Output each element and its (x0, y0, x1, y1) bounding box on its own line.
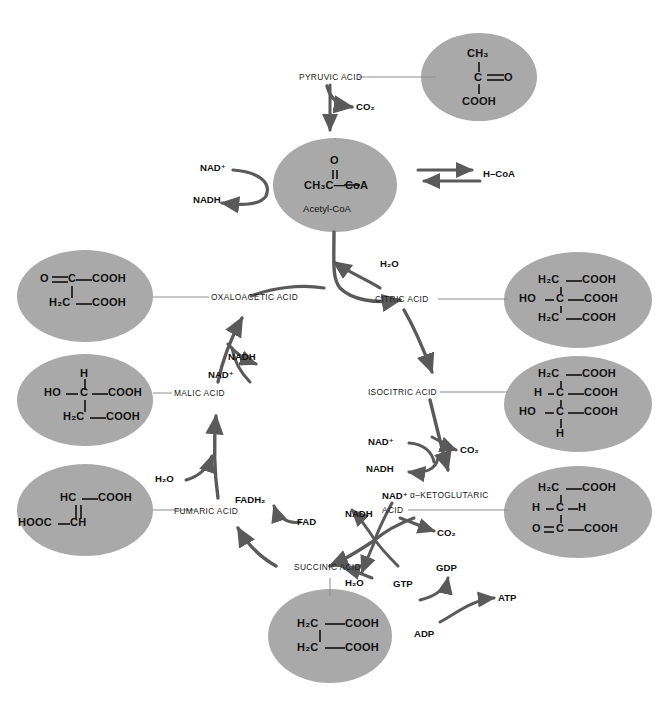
ketoglutaric-acid-structure-o: O (532, 523, 541, 534)
label-co2-pyruvate: CO₂ (356, 101, 375, 112)
succinic-acid-structure-cooh-a: COOH (345, 618, 379, 629)
node-label-citric-acid[interactable]: CITRIC ACID (375, 294, 429, 305)
isocitric-acid-structure-cooh-1: COOH (582, 368, 616, 379)
isocitric-acid-structure-ch2: H₂C (538, 368, 559, 379)
node-label-isocitric-acid[interactable]: ISOCITRIC ACID (368, 387, 437, 398)
isocitric-acid-structure-cooh-2: COOH (584, 387, 618, 398)
pyruvic-acid-structure-line2: C (474, 72, 482, 83)
oxaloacetic-acid-structure-line1-cooh: COOH (92, 273, 126, 284)
node-label-fumaric-acid[interactable]: FUMARIC ACID (174, 506, 238, 517)
arrow-fumaric-to-malic (215, 416, 218, 498)
arrow-nad-isocitrate (409, 443, 434, 462)
label-co2-isocitrate: CO₂ (460, 444, 479, 455)
label-gdp: GDP (436, 562, 457, 573)
label-adp: ADP (414, 628, 434, 639)
succinic-acid-structure-ch2-b: H₂C (297, 642, 318, 653)
arrow-co2-ketoglutarate (400, 518, 434, 531)
malic-acid-structure-ch2: H₂C (63, 411, 84, 422)
malic-acid-structure-cooh2: COOH (106, 411, 140, 422)
arrow-co2-isocitrate (432, 437, 456, 450)
diagram-canvas: PYRUVIC ACID Acetyl-CoA OXALOACETIC ACID… (0, 0, 655, 702)
arrow-h2o-to-malate (186, 456, 212, 480)
node-label-oxaloacetic-acid[interactable]: OXALOACETIC ACID (211, 292, 298, 303)
ketoglutaric-acid-structure-h-left: H (532, 502, 540, 513)
arrow-succinic-to-fumaric (238, 528, 276, 566)
isocitric-acid-structure-ho: HO (519, 406, 536, 417)
label-nadh-isocitrate: NADH (366, 463, 394, 474)
isocitric-acid-structure-h: H (534, 387, 542, 398)
fumaric-acid-structure-cooh: COOH (98, 492, 132, 503)
ketoglutaric-acid-structure-cooh-1: COOH (582, 482, 616, 493)
isocitric-acid-structure-c2: C (556, 406, 564, 417)
citric-acid-structure-ho: HO (519, 293, 536, 304)
citric-acid-structure-c: C (556, 293, 564, 304)
arrow-h2o-to-citrate (334, 262, 380, 288)
ketoglutaric-acid-structure-c: C (556, 502, 564, 513)
arrow-adp-to-atp (440, 598, 494, 622)
isocitric-acid-structure-cooh-3: COOH (584, 406, 618, 417)
node-label-pyruvic-acid[interactable]: PYRUVIC ACID (299, 72, 362, 83)
citric-acid-structure-ch2-top: H₂C (538, 274, 559, 285)
label-nad-plus-malate: NAD⁺ (208, 369, 234, 380)
citric-acid-structure-ch2-bot: H₂C (538, 312, 559, 323)
ketoglutaric-acid-structure-c2: C (556, 523, 564, 534)
diagram-vector-layer (0, 0, 655, 702)
oxaloacetic-acid-structure-line2-cooh: COOH (92, 297, 126, 308)
arrow-gtp-to-gdp (420, 578, 448, 600)
label-h-coa: H–CoA (483, 168, 515, 179)
fumaric-acid-structure-ch: CH (70, 517, 86, 528)
arrow-citric-to-isocitric (404, 310, 432, 372)
citric-acid-structure-cooh-top: COOH (582, 274, 616, 285)
ketoglutaric-acid-structure-ch2: H₂C (538, 482, 559, 493)
acetyl-coa-structure-oxygen: O (330, 155, 339, 166)
label-nadh-malate: NADH (228, 351, 256, 362)
label-fadh2: FADH₂ (235, 494, 265, 505)
pyruvic-acid-structure-line1: CH₃ (467, 48, 489, 59)
label-fad: FAD (297, 516, 316, 527)
citric-acid-structure-cooh-mid: COOH (584, 293, 618, 304)
fumaric-acid-structure-hooc: HOOC (18, 517, 52, 528)
label-h2o-citrate: H₂O (380, 258, 399, 269)
bubble-oxaloacetic-acid (17, 250, 153, 342)
malic-acid-structure-ho: HO (44, 387, 61, 398)
oxaloacetic-acid-structure-line2-ch2: H₂C (49, 297, 70, 308)
node-label-succinic-acid[interactable]: SUCCINIC ACID (294, 562, 361, 573)
label-nadh-acetyl: NADH (193, 194, 221, 205)
fumaric-acid-structure-hc: HC (60, 492, 76, 503)
structure-bubbles (17, 33, 652, 683)
oxaloacetic-acid-structure-line1-rest: C (68, 273, 76, 284)
node-label-acetyl-coa[interactable]: Acetyl-CoA (303, 203, 351, 214)
label-nad-plus-ketoglutarate: NAD⁺ (382, 490, 408, 501)
label-nadh-ketoglutarate: NADH (345, 508, 373, 519)
label-h2o-succinyl: H₂O (345, 577, 364, 588)
succinic-acid-structure-ch2-a: H₂C (297, 618, 318, 629)
node-label-alpha-ketoglutaric-acid-line1[interactable]: α–KETOGLUTARIC (410, 490, 489, 501)
oxaloacetic-acid-structure-line1-o: O (40, 273, 49, 284)
pyruvic-acid-structure-line3: COOH (462, 96, 496, 107)
bubble-succinic-acid (268, 589, 392, 683)
bubble-fumaric-acid (17, 464, 153, 556)
malic-acid-structure-cooh1: COOH (108, 387, 142, 398)
arrow-nad-to-nadh-acetyl (222, 170, 267, 204)
ketoglutaric-acid-structure-cooh-2: COOH (584, 523, 618, 534)
node-label-malic-acid[interactable]: MALIC ACID (174, 388, 225, 399)
label-nad-plus-isocitrate: NAD⁺ (368, 436, 394, 447)
bubble-isocitric-acid (504, 356, 652, 452)
citric-acid-structure-cooh-bot: COOH (582, 312, 616, 323)
label-h2o-fumarate: H₂O (155, 473, 174, 484)
arrow-hub-to-gdp (375, 540, 398, 566)
malic-acid-structure-c1: C (80, 387, 88, 398)
malic-acid-structure-h: H (80, 368, 88, 379)
label-atp: ATP (498, 592, 516, 603)
succinic-acid-structure-cooh-b: COOH (345, 642, 379, 653)
ketoglutaric-acid-structure-h-right: H (578, 502, 586, 513)
pyruvic-acid-structure-oxygen: O (504, 72, 513, 83)
label-gtp: GTP (393, 578, 413, 589)
acetyl-coa-structure-backbone: CH₃C—CoA (304, 180, 368, 191)
node-label-alpha-ketoglutaric-acid-line2[interactable]: ACID (382, 505, 403, 516)
label-nad-plus-acetyl: NAD⁺ (200, 162, 226, 173)
isocitric-acid-structure-c1: C (556, 387, 564, 398)
isocitric-acid-structure-h-bottom: H (556, 428, 564, 439)
label-co2-ketoglutarate: CO₂ (437, 527, 456, 538)
